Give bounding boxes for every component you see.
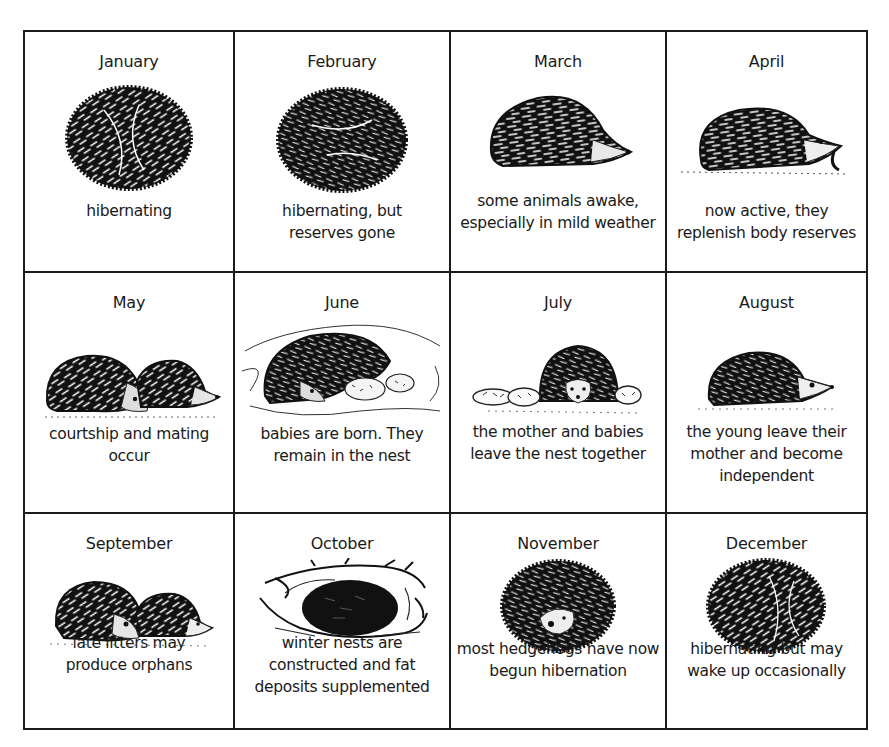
month-label: October (235, 534, 449, 554)
month-description: late litters may produce orphans (53, 632, 205, 676)
month-cell-august: August the young leave their mother and … (667, 273, 866, 514)
month-label: March (451, 52, 665, 72)
month-cell-october: October winter nests are constructed and… (235, 514, 451, 728)
month-description: some animals awake, especially in mild w… (455, 190, 661, 234)
month-description: hibernating but may wake up occasionally (671, 638, 862, 682)
month-description: most hedgehogs have now begun hibernatio… (455, 638, 661, 682)
hedgehog-eating-worm-icon (667, 80, 866, 200)
month-cell-june: June babies are born. They remain in the… (235, 273, 451, 514)
month-label: April (667, 52, 866, 72)
month-label: November (451, 534, 665, 554)
month-cell-march: March some animals awake, especially in … (451, 32, 667, 273)
month-label: June (235, 293, 449, 313)
month-description: courtship and mating occur (29, 423, 229, 467)
month-cell-february: February hibernating, but reserves gone (235, 32, 451, 273)
month-cell-september: September late litters may produce orpha… (25, 514, 235, 728)
month-label: August (667, 293, 866, 313)
month-label: January (25, 52, 233, 72)
month-cell-december: December hibernating but may wake up occ… (667, 514, 866, 728)
month-description: babies are born. They remain in the nest (239, 423, 445, 467)
month-label: September (25, 534, 233, 554)
hedgehog-side-icon (451, 80, 665, 200)
month-cell-november: November most hedgehogs have now begun h… (451, 514, 667, 728)
month-label: December (667, 534, 866, 554)
month-label: July (451, 293, 665, 313)
month-description: the young leave their mother and become … (671, 421, 862, 487)
hedgehog-nest-babies-icon (235, 311, 449, 431)
month-label: February (235, 52, 449, 72)
month-description: now active, they replenish body reserves (671, 200, 862, 244)
curled-hedgehog-icon (235, 80, 449, 200)
month-description: the mother and babies leave the nest tog… (455, 421, 661, 465)
month-cell-january: January hibernating (25, 32, 235, 273)
month-label: May (25, 293, 233, 313)
hedgehog-calendar-grid: January hibernating February hibernating… (23, 30, 868, 730)
month-cell-april: April now active, they replenish body re… (667, 32, 866, 273)
month-description: winter nests are constructed and fat dep… (239, 632, 445, 698)
month-cell-may: May courtship and mating occur (25, 273, 235, 514)
month-cell-july: July the mother and babies leave the nes… (451, 273, 667, 514)
month-description: hibernating, but reserves gone (265, 200, 419, 244)
month-description: hibernating (29, 200, 229, 222)
curled-hedgehog-icon (25, 80, 233, 200)
